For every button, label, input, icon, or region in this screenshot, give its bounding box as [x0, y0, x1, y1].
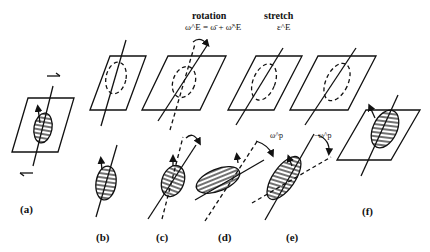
- stretch-equation: ε^E: [277, 22, 291, 32]
- panel-label-e: (e): [286, 231, 298, 243]
- panel-c-bottom: [148, 135, 199, 219]
- panel-e-top: [290, 48, 376, 125]
- panel-label-b: (b): [96, 231, 109, 243]
- rotation-equation: ω^E = ω̄ + ω̃^E: [185, 22, 241, 32]
- panel-b-bottom: [94, 145, 119, 217]
- panel-label-c: (c): [156, 231, 168, 243]
- rotation-title: rotation: [192, 10, 226, 21]
- panel-e-bottom: [252, 134, 331, 220]
- panel-label-d: (d): [218, 231, 231, 243]
- panel-label-f: (f): [362, 205, 373, 217]
- panel-a: [12, 73, 74, 176]
- omega-p-label: ω^p: [270, 131, 283, 140]
- stretch-title: stretch: [264, 10, 293, 21]
- panel-d-bottom: [193, 140, 272, 221]
- panel-label-a: (a): [20, 203, 33, 215]
- panel-c-top: [142, 39, 226, 130]
- panel-b-top: [90, 40, 146, 126]
- panel-d-top: [228, 48, 302, 125]
- neg-omega-p-label: −ω^p: [314, 131, 332, 140]
